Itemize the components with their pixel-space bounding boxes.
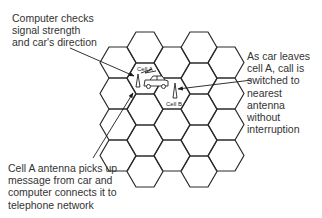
callout-car-leaves: As car leaves cell A, call is switched t…: [247, 50, 310, 135]
antenna-b-icon: [173, 83, 177, 98]
pointer-cell-a-antenna: [93, 93, 133, 158]
antenna-a-icon: [136, 74, 140, 87]
hex-cell: [181, 32, 217, 63]
pointer-computer-checks: [70, 48, 134, 76]
hex-cell: [127, 32, 163, 63]
callout-computer-checks: Computer checks signal strength and car'…: [12, 12, 97, 49]
hex-cells: [100, 32, 244, 187]
cell-a-label: Cell A: [137, 66, 153, 72]
callout-cell-a-antenna: Cell A antenna picks up message from car…: [8, 162, 117, 211]
cell-b-label: Cell B: [166, 101, 182, 107]
